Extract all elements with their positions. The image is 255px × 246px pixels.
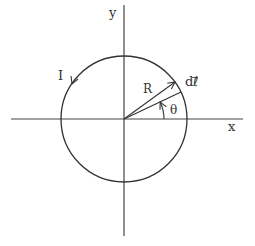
current-loop-diagram: y x I R θ dℓ⃗ [0,0,255,246]
theta-arc [160,102,164,119]
radius-label: R [143,82,153,96]
theta-label: θ [170,103,177,117]
diagram-canvas: y x I R θ dℓ⃗ [0,0,255,246]
dl-element-label: dℓ⃗ [185,74,198,89]
x-axis-label: x [228,119,236,134]
y-axis-label: y [108,5,117,20]
current-label: I [58,68,63,83]
